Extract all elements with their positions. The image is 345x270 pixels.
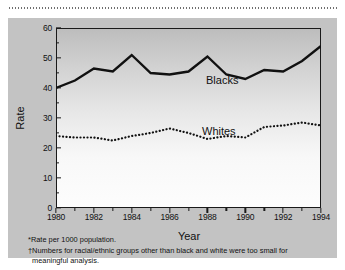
x-tick-label: 1986	[161, 212, 179, 222]
figure-panel: Rate 0102030405060 198019821984198619881…	[8, 18, 337, 258]
x-tick-label: 1988	[198, 212, 216, 222]
x-tick-mark-minor	[74, 208, 75, 211]
y-tick-mark	[56, 27, 61, 28]
x-tick-mark	[245, 208, 246, 213]
top-dotted-rule	[8, 7, 337, 9]
y-tick-label: 10	[43, 173, 52, 183]
y-tick-mark-minor	[56, 192, 59, 193]
y-tick-mark-minor	[56, 72, 59, 73]
plot-frame: 0102030405060 19801982198419861988199019…	[56, 28, 321, 208]
y-tick-label: 30	[43, 113, 52, 123]
x-tick-mark-minor	[112, 208, 113, 211]
y-tick-mark-minor	[56, 42, 59, 43]
y-tick-mark-minor	[56, 162, 59, 163]
x-tick-mark-minor	[150, 208, 151, 211]
x-tick-mark	[320, 208, 321, 213]
footnote-groups-line2: meaningful analysis.	[28, 256, 333, 267]
x-tick-mark	[131, 208, 132, 213]
y-tick-mark	[56, 87, 61, 88]
x-tick-mark	[207, 208, 208, 213]
x-tick-label: 1994	[312, 212, 330, 222]
x-tick-mark-minor	[264, 208, 265, 211]
x-tick-mark-minor	[226, 208, 227, 211]
x-tick-mark	[282, 208, 283, 213]
y-tick-mark	[56, 117, 61, 118]
x-tick-label: 1980	[47, 212, 65, 222]
footnote-rate: *Rate per 1000 population.	[28, 235, 333, 246]
series-label-whites: Whites	[202, 125, 236, 137]
x-tick-label: 1992	[274, 212, 292, 222]
y-tick-label: 50	[43, 53, 52, 63]
x-tick-mark-minor	[188, 208, 189, 211]
plot-lines	[56, 28, 321, 208]
y-tick-mark-minor	[56, 102, 59, 103]
footnotes: *Rate per 1000 population. †Numbers for …	[28, 235, 333, 267]
x-tick-label: 1982	[85, 212, 103, 222]
y-tick-label: 40	[43, 83, 52, 93]
x-tick-mark	[93, 208, 94, 213]
y-tick-label: 20	[43, 143, 52, 153]
y-tick-mark	[56, 207, 61, 208]
y-axis-title: Rate	[14, 106, 26, 129]
y-tick-mark-minor	[56, 132, 59, 133]
series-line-blacks	[56, 46, 321, 88]
x-tick-mark-minor	[301, 208, 302, 211]
x-tick-mark	[169, 208, 170, 213]
y-tick-mark	[56, 57, 61, 58]
x-tick-mark	[55, 208, 56, 213]
x-tick-label: 1984	[123, 212, 141, 222]
series-line-whites	[56, 123, 321, 141]
footnote-groups-line1: †Numbers for racial/ethnic groups other …	[28, 246, 333, 257]
x-tick-label: 1990	[236, 212, 254, 222]
y-tick-label: 60	[43, 23, 52, 33]
y-tick-mark	[56, 147, 61, 148]
series-label-blacks: Blacks	[206, 74, 238, 86]
y-tick-mark	[56, 177, 61, 178]
